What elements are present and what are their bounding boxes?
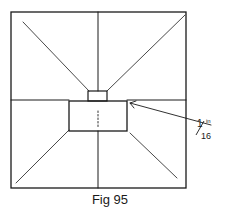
svg-text:in: in [206,118,211,124]
figure-caption: Fig 95 [0,192,220,207]
diagonal-bottom-right [130,133,177,178]
svg-text:16: 16 [201,131,211,141]
dimension-label: 1 16 in [196,118,211,141]
diagram: 1 16 in [0,0,235,218]
diagonal-bottom-left [16,130,69,183]
diagonal-top-left [23,22,89,91]
diagonal-top-right [107,15,185,91]
small-block [88,91,107,101]
